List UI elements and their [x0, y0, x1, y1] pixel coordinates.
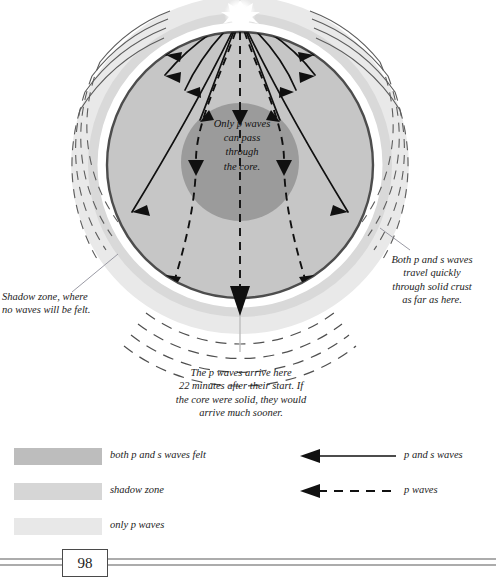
legend-row: only p waves: [0, 516, 496, 538]
legend-swatch-shadow-zone: [14, 483, 102, 500]
annotation-crust: Both p and s waves travel quickly throug…: [372, 253, 492, 307]
legend-swatch-only-p-waves: [14, 518, 102, 535]
legend-label-p-waves: p waves: [404, 484, 438, 495]
legend-label-shadow-zone: shadow zone: [110, 484, 164, 495]
legend-label-p-and-s-waves: p and s waves: [404, 449, 463, 460]
legend-arrow-dashed: [296, 479, 400, 503]
legend: both p and s waves felt p and s waves sh…: [0, 440, 496, 540]
legend-arrow-solid: [296, 444, 400, 468]
seismic-wave-diagram: Only p waves can pass through the core. …: [0, 0, 496, 582]
legend-row: shadow zone p waves: [0, 481, 496, 503]
legend-swatch-both-p-and-s: [14, 448, 102, 465]
legend-row: both p and s waves felt p and s waves: [0, 446, 496, 468]
annotation-core: Only p waves can pass through the core.: [196, 117, 288, 174]
page-number: 98: [62, 549, 108, 577]
annotation-arrival-time: The p waves arrive here 22 minutes after…: [140, 366, 342, 420]
legend-label-both-p-and-s: both p and s waves felt: [110, 449, 206, 460]
legend-label-only-p-waves: only p waves: [110, 519, 164, 530]
page-footer: 98: [0, 548, 496, 582]
annotation-shadow-zone: Shadow zone, where no waves will be felt…: [2, 290, 134, 317]
